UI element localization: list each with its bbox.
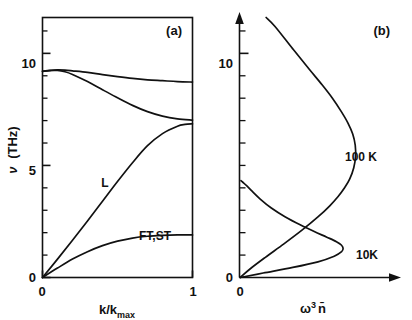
panel-b-curve-label-hot: 100 K	[345, 150, 377, 164]
panel-a-label: (a)	[166, 23, 182, 38]
panel-a-ylabel: ν (THz)	[5, 126, 20, 173]
panel-a-ylabel-symbol: ν	[5, 166, 20, 174]
panel-b-y-ticks	[240, 31, 249, 255]
panel-a-x-ticks	[43, 271, 193, 278]
panel-b-curve-10K	[240, 181, 343, 278]
panel-b-xlabel-bar: n̄	[318, 301, 326, 316]
panel-b-xtick-0: 0	[236, 284, 243, 299]
panel-b-ytick-0: 0	[226, 270, 233, 285]
panel-a-xtick-1: 1	[189, 284, 196, 299]
panel-a-ytick-10: 10	[22, 56, 36, 71]
panel-a-curve-label-longitudinal: L	[101, 176, 108, 190]
panel-b-xlabel: ω3n̄	[300, 300, 326, 316]
panel-a-xlabel-main: k/k	[99, 302, 118, 317]
panel-a-xlabel-sub: max	[117, 310, 135, 320]
panel-a-ytick-5: 5	[29, 163, 36, 178]
panel-b-ytick-10: 10	[219, 56, 233, 71]
panel-b-x-axis-arrow	[389, 273, 401, 282]
panel-b-xlabel-sup: 3	[311, 300, 316, 310]
panel-b: 0 10 0 ω3n̄ (b) 100 K 10K	[219, 12, 401, 316]
panel-b-xlabel-symbol: ω	[300, 301, 311, 316]
panel-b-y-axis-arrow	[235, 12, 244, 24]
panel-a-curve-label-transverse: FT,ST	[139, 229, 172, 243]
panel-b-curve-label-cold: 10K	[356, 248, 378, 262]
svg-text:ν (THz): ν (THz)	[5, 126, 20, 173]
panel-a-curve-optic-lower	[43, 70, 193, 120]
panel-a: 0 5 10 0 1 ν (THz) k/kmax (a) L FT,ST	[5, 18, 197, 320]
panel-a-curves	[43, 70, 193, 278]
figure-svg: 0 5 10 0 1 ν (THz) k/kmax (a) L FT,ST	[0, 0, 412, 320]
panel-a-ytick-0: 0	[29, 270, 36, 285]
panel-b-curve-100K	[240, 18, 355, 278]
figure-container: 0 5 10 0 1 ν (THz) k/kmax (a) L FT,ST	[0, 0, 412, 320]
panel-a-y-ticks	[43, 31, 51, 278]
panel-b-label: (b)	[373, 23, 390, 38]
panel-a-ylabel-unit: (THz)	[5, 126, 20, 159]
panel-a-xlabel: k/kmax	[99, 302, 135, 320]
panel-b-curves	[240, 18, 355, 278]
panel-a-curve-longitudinal-acoustic	[43, 124, 193, 278]
panel-a-xtick-0: 0	[38, 284, 45, 299]
